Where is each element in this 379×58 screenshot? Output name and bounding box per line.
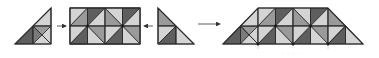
- caption: · · · ·: [282, 50, 300, 56]
- right-triangle: [158, 8, 194, 44]
- tiling-diagram: [0, 0, 379, 58]
- left-triangle: [15, 8, 51, 44]
- trapezoid: [223, 8, 363, 49]
- rectangle: [70, 8, 140, 44]
